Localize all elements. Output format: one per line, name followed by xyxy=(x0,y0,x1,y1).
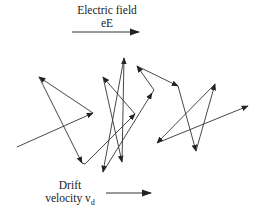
path-segment-arrow xyxy=(103,77,135,114)
path-segment-arrow xyxy=(122,58,124,162)
path-connector xyxy=(152,90,154,93)
path-segment-arrow xyxy=(157,106,248,143)
path-segment-arrow xyxy=(17,113,93,147)
path-segment-arrow xyxy=(137,66,178,86)
path-segment-arrow xyxy=(85,114,135,164)
path-segment-arrow xyxy=(39,77,82,163)
path-connector xyxy=(82,163,85,164)
random-walk-diagram xyxy=(0,0,262,220)
path-segment-arrow xyxy=(39,77,93,113)
zigzag-path xyxy=(17,58,248,172)
path-segment-arrow xyxy=(137,66,154,90)
